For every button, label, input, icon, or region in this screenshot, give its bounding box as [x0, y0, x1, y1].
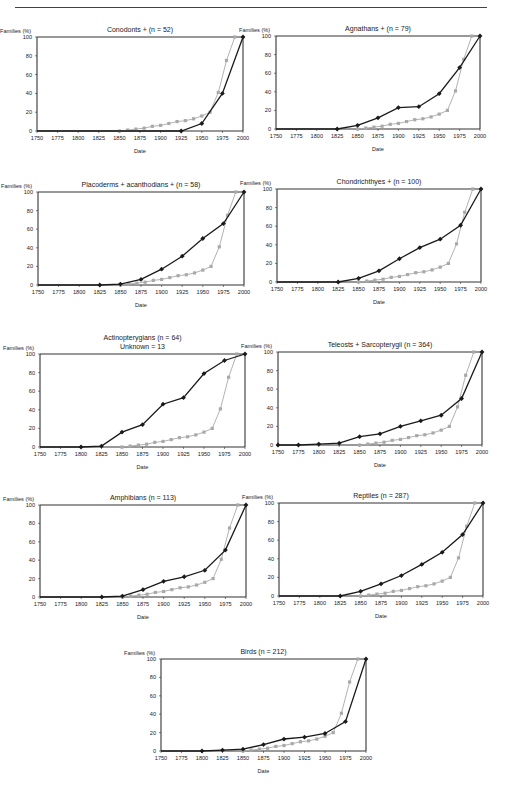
data-point [380, 125, 383, 128]
data-point [236, 503, 239, 506]
data-point [219, 407, 222, 410]
x-tick-label: 1825 [96, 601, 108, 607]
x-tick-label: 1775 [292, 449, 304, 455]
series-all-families [121, 503, 240, 598]
data-point [454, 89, 457, 92]
y-tick-label: 0 [29, 128, 32, 134]
chart-title: Actinopterygians (n = 64) [103, 334, 181, 342]
x-tick-label: 1825 [95, 451, 107, 457]
data-point [447, 262, 450, 265]
x-tick-label: 1875 [375, 600, 387, 606]
x-tick-label: 1925 [178, 601, 190, 607]
series-group [40, 352, 247, 450]
data-point [228, 526, 231, 529]
y-tick-label: 20 [265, 107, 271, 113]
x-tick-label: 1850 [237, 755, 249, 761]
x-tick-label: 1850 [116, 601, 128, 607]
y-tick-label: 60 [29, 388, 35, 394]
x-tick-label: 1825 [93, 135, 105, 141]
x-tick-label: 1850 [352, 286, 364, 292]
y-tick-label: 80 [267, 368, 273, 374]
x-tick-label: 1750 [271, 286, 283, 292]
x-tick-label: 1975 [453, 133, 465, 139]
y-tick-label: 80 [266, 205, 272, 211]
x-tick-label: 1900 [393, 286, 405, 292]
y-tick-label: 60 [26, 72, 32, 78]
chart-subtitle: Unknown = 13 [120, 343, 165, 350]
x-tick-label: 1925 [416, 600, 428, 606]
series-group [38, 190, 246, 288]
data-point [471, 187, 474, 190]
x-tick-label: 1750 [273, 600, 285, 606]
data-point [335, 127, 340, 132]
x-tick-label: 1850 [353, 449, 365, 455]
data-point [375, 593, 378, 596]
chart-title: Reptiles (n = 287) [353, 492, 408, 500]
data-point [261, 742, 266, 747]
x-tick-label: 1950 [319, 755, 331, 761]
data-point [470, 34, 473, 37]
data-point [168, 276, 171, 279]
data-point [186, 435, 189, 438]
data-point [383, 592, 386, 595]
data-point [415, 434, 418, 437]
data-point [372, 126, 375, 129]
y-tick-label: 20 [266, 260, 272, 266]
x-tick-label: 1875 [373, 286, 385, 292]
x-tick-label: 1775 [175, 755, 187, 761]
x-tick-label: 1900 [395, 600, 407, 606]
series-all-families [357, 187, 474, 283]
data-point [413, 118, 416, 121]
data-point [167, 122, 170, 125]
x-tick-label: 1800 [75, 451, 87, 457]
data-point [302, 735, 307, 740]
data-point [161, 579, 166, 584]
chart-title: Placoderms + acanthodians + (n = 58) [82, 181, 201, 189]
x-tick-label: 1775 [290, 133, 302, 139]
data-point [220, 748, 225, 753]
y-tick-label: 80 [268, 519, 274, 525]
data-point [152, 279, 155, 282]
x-tick-label: 1850 [351, 133, 363, 139]
data-point [364, 657, 369, 662]
x-tick-label: 1850 [114, 289, 126, 295]
data-point [299, 740, 302, 743]
data-point [227, 376, 230, 379]
y-tick-label: 40 [29, 557, 35, 563]
chart-agnathans: Agnathans + (n = 79)Families (%)02040608… [239, 25, 486, 152]
y-tick-label: 0 [269, 279, 272, 285]
y-tick-label: 40 [267, 405, 273, 411]
y-tick-label: 0 [271, 593, 274, 599]
x-tick-label: 1975 [456, 600, 468, 606]
x-tick-label: 1975 [219, 601, 231, 607]
data-point [432, 582, 435, 585]
data-point [438, 113, 441, 116]
data-point [405, 120, 408, 123]
data-point [200, 114, 203, 117]
x-tick-label: 2000 [239, 451, 251, 457]
data-point [424, 584, 427, 587]
data-point [390, 276, 393, 279]
x-tick-label: 1850 [116, 451, 128, 457]
y-tick-label: 60 [29, 539, 35, 545]
x-tick-label: 2000 [360, 755, 372, 761]
y-tick-label: 100 [24, 189, 33, 195]
data-point [374, 442, 377, 445]
data-point [456, 405, 459, 408]
x-tick-label: 1975 [216, 135, 228, 141]
data-point [367, 593, 370, 596]
data-point [416, 585, 419, 588]
data-point [276, 443, 281, 448]
data-point [137, 594, 140, 597]
series-group [279, 501, 485, 599]
x-tick-label: 1775 [52, 289, 64, 295]
x-tick-label: 1800 [196, 755, 208, 761]
x-tick-label: 1775 [291, 286, 303, 292]
x-tick-label: 2000 [477, 600, 489, 606]
x-tick-label: 1925 [298, 755, 310, 761]
series-all-families [359, 501, 476, 597]
data-point [233, 35, 236, 38]
x-tick-label: 1800 [311, 133, 323, 139]
chart-title: Conodonts + (n = 52) [107, 26, 173, 34]
data-point [134, 128, 137, 131]
